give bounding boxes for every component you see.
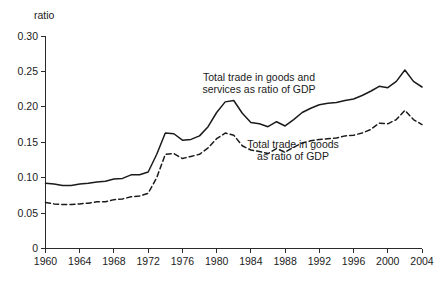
x-tick-label: 1992 xyxy=(308,255,332,267)
y-tick-label: 0.20 xyxy=(18,100,39,112)
y-tick-label: 0.05 xyxy=(18,207,39,219)
x-tick-label: 1976 xyxy=(171,255,195,267)
x-tick-label: 1964 xyxy=(68,255,92,267)
x-tick-label: 1972 xyxy=(137,255,161,267)
x-tick-label: 1984 xyxy=(239,255,263,267)
x-axis-ticks: 1960196419681972197619801984198819921996… xyxy=(34,249,434,268)
y-axis-ticks: 00.050.100.150.200.250.30 xyxy=(18,30,46,255)
x-tick-label: 1968 xyxy=(102,255,126,267)
y-tick-label: 0.15 xyxy=(18,136,39,148)
x-tick-label: 1996 xyxy=(342,255,366,267)
chart-figure: ratio 00.050.100.150.200.250.30 19601964… xyxy=(0,0,446,282)
series-line-2 xyxy=(46,110,423,204)
y-tick-label: 0 xyxy=(32,242,38,254)
x-tick-label: 1988 xyxy=(273,255,297,267)
series1-label-line-1: Total trade in goods and xyxy=(203,71,315,83)
series2-label-line-2: as ratio of GDP xyxy=(257,150,329,162)
x-tick-label: 1960 xyxy=(34,255,58,267)
series1-label-line-2: services as ratio of GDP xyxy=(202,83,315,95)
y-axis-title: ratio xyxy=(34,9,55,21)
x-tick-label: 1980 xyxy=(205,255,229,267)
y-tick-label: 0.25 xyxy=(18,65,39,77)
chart-annotations: Total trade in goods andservices as rati… xyxy=(202,71,338,162)
y-tick-label: 0.10 xyxy=(18,171,39,183)
x-tick-label: 2000 xyxy=(376,255,400,267)
trade-ratio-line-chart: ratio 00.050.100.150.200.250.30 19601964… xyxy=(0,0,446,282)
x-tick-label: 2004 xyxy=(410,255,434,267)
series2-label-line-1: Total trade in goods xyxy=(247,138,339,150)
y-tick-label: 0.30 xyxy=(18,30,39,42)
